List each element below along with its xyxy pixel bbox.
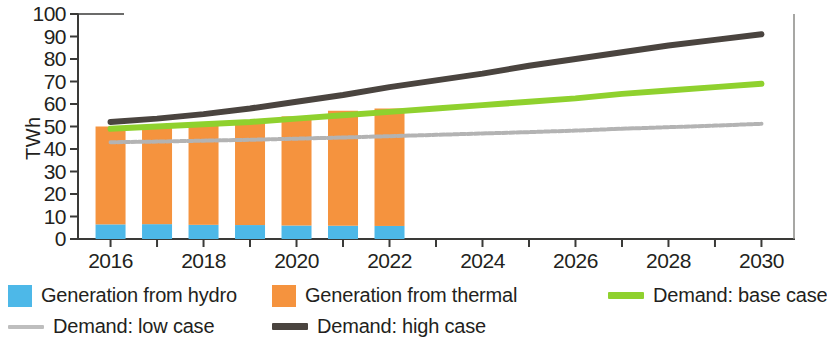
- line-demand-base-case: [111, 84, 762, 129]
- x-axis-tick-label: 2030: [721, 250, 801, 271]
- y-axis-tick-label: 0: [4, 228, 66, 249]
- bar-segment-hydro: [235, 225, 265, 239]
- bar-group: [142, 128, 172, 239]
- bar-segment-hydro: [189, 225, 219, 239]
- x-axis-tick-label: 2020: [257, 250, 337, 271]
- bar-segment-thermal: [328, 111, 358, 226]
- x-axis-tick-label: 2018: [164, 250, 244, 271]
- bar-segment-hydro: [282, 226, 312, 240]
- legend-color-swatch: [272, 285, 296, 307]
- legend-item-label: Generation from thermal: [305, 284, 517, 307]
- legend-line-swatch: [608, 292, 644, 299]
- x-axis-tick-label: 2026: [535, 250, 615, 271]
- legend-item-label: Demand: base case: [653, 284, 827, 307]
- legend-item[interactable]: Demand: low case: [8, 315, 214, 338]
- y-axis-title: TWh: [22, 116, 45, 160]
- y-axis-tick-label: 10: [4, 206, 66, 227]
- x-axis-tick-label: 2022: [350, 250, 430, 271]
- legend-line-swatch: [272, 323, 308, 330]
- bar-group: [328, 111, 358, 239]
- legend-item[interactable]: Generation from hydro: [8, 284, 237, 307]
- bar-segment-hydro: [96, 224, 126, 239]
- legend-color-swatch: [8, 285, 32, 307]
- x-axis-tick-label: 2028: [628, 250, 708, 271]
- bar-segment-thermal: [235, 121, 265, 225]
- y-axis-tick-label: 70: [4, 71, 66, 92]
- y-axis-tick-label: 20: [4, 183, 66, 204]
- legend-item-label: Demand: high case: [317, 315, 486, 338]
- y-axis-tick-label: 30: [4, 161, 66, 182]
- x-axis-tick-label: 2024: [442, 250, 522, 271]
- legend-item[interactable]: Generation from thermal: [272, 284, 517, 307]
- x-axis-tick-label: 2016: [71, 250, 151, 271]
- y-axis-tick-label: 60: [4, 93, 66, 114]
- y-axis-tick-label: 100: [4, 3, 66, 24]
- bar-group: [375, 109, 405, 240]
- legend-line-swatch-dotted: [8, 325, 44, 329]
- legend-item-label: Generation from hydro: [41, 284, 237, 307]
- bar-segment-hydro: [375, 226, 405, 239]
- bar-segment-hydro: [328, 226, 358, 239]
- bar-segment-thermal: [282, 116, 312, 225]
- legend-item[interactable]: Demand: base case: [608, 284, 827, 307]
- legend-item[interactable]: Demand: high case: [272, 315, 486, 338]
- legend-item-label: Demand: low case: [53, 315, 214, 338]
- bar-segment-thermal: [375, 109, 405, 226]
- y-axis-tick-label: 80: [4, 48, 66, 69]
- chart-legend: Generation from hydroGeneration from the…: [0, 282, 807, 344]
- bar-group: [282, 116, 312, 239]
- bar-segment-hydro: [142, 224, 172, 239]
- y-axis-tick-label: 90: [4, 26, 66, 47]
